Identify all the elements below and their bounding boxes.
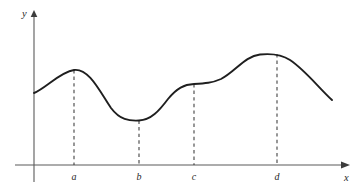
y-axis-label: y — [21, 8, 27, 19]
x-tick-label-c: c — [192, 171, 197, 182]
y-axis-arrowhead — [31, 10, 38, 17]
function-curve — [34, 54, 332, 121]
x-tick-label-b: b — [137, 171, 142, 182]
x-axis-label: x — [343, 172, 349, 183]
x-tick-label-d: d — [275, 171, 281, 182]
x-tick-label-a: a — [72, 171, 77, 182]
graph-svg: y x a b c d — [0, 0, 362, 191]
x-axis-arrowhead — [341, 162, 350, 169]
graph-figure: y x a b c d — [0, 0, 362, 191]
